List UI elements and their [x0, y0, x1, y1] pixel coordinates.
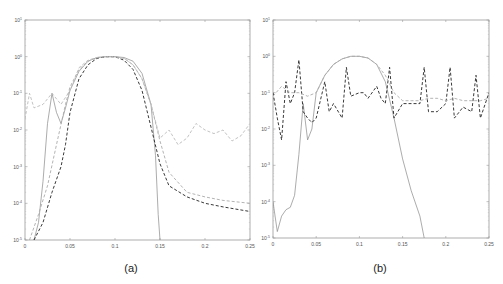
y-tick-label: 101 — [262, 17, 270, 23]
panel-a: 00.050.10.150.20.2510-510-410-310-210-11… — [13, 17, 255, 249]
y-tick-label: 100 — [14, 54, 22, 60]
y-tick-label: 10-1 — [13, 90, 22, 96]
x-tick-label: 0.2 — [442, 241, 449, 247]
x-tick-label: 0.25 — [484, 241, 494, 247]
figure: 00.050.10.150.20.2510-510-410-310-210-11… — [0, 0, 503, 284]
x-tick-label: 0.15 — [155, 243, 165, 249]
panel-b: 00.050.10.150.20.2510-510-410-310-210-11… — [261, 17, 494, 247]
x-tick-label: 0.2 — [202, 243, 209, 249]
x-tick-label: 0.05 — [65, 243, 75, 249]
x-tick-label: 0.05 — [311, 241, 321, 247]
x-tick-label: 0.1 — [356, 241, 363, 247]
series-line — [34, 57, 160, 240]
y-tick-label: 10-2 — [261, 126, 270, 132]
plot-frame — [25, 20, 250, 240]
y-tick-label: 10-2 — [13, 127, 22, 133]
x-tick-label: 0.15 — [398, 241, 408, 247]
series-line — [273, 60, 489, 140]
x-tick-label: 0.25 — [245, 243, 255, 249]
y-tick-label: 10-3 — [13, 164, 22, 170]
panel-b-caption: (b) — [373, 262, 386, 274]
y-tick-label: 10-5 — [13, 237, 22, 243]
y-tick-label: 10-1 — [261, 90, 270, 96]
series-line — [34, 57, 250, 240]
series-line — [273, 56, 489, 100]
series-line — [25, 57, 250, 145]
x-tick-label: 0 — [24, 243, 27, 249]
panel-a-caption: (a) — [124, 262, 137, 274]
y-tick-label: 10-4 — [261, 199, 270, 205]
y-tick-label: 100 — [262, 53, 270, 59]
plot-frame — [273, 20, 489, 238]
y-tick-label: 101 — [14, 17, 22, 23]
y-tick-label: 10-5 — [261, 235, 270, 241]
y-tick-label: 10-4 — [13, 200, 22, 206]
x-tick-label: 0 — [272, 241, 275, 247]
x-tick-label: 0.1 — [112, 243, 119, 249]
y-tick-label: 10-3 — [261, 162, 270, 168]
